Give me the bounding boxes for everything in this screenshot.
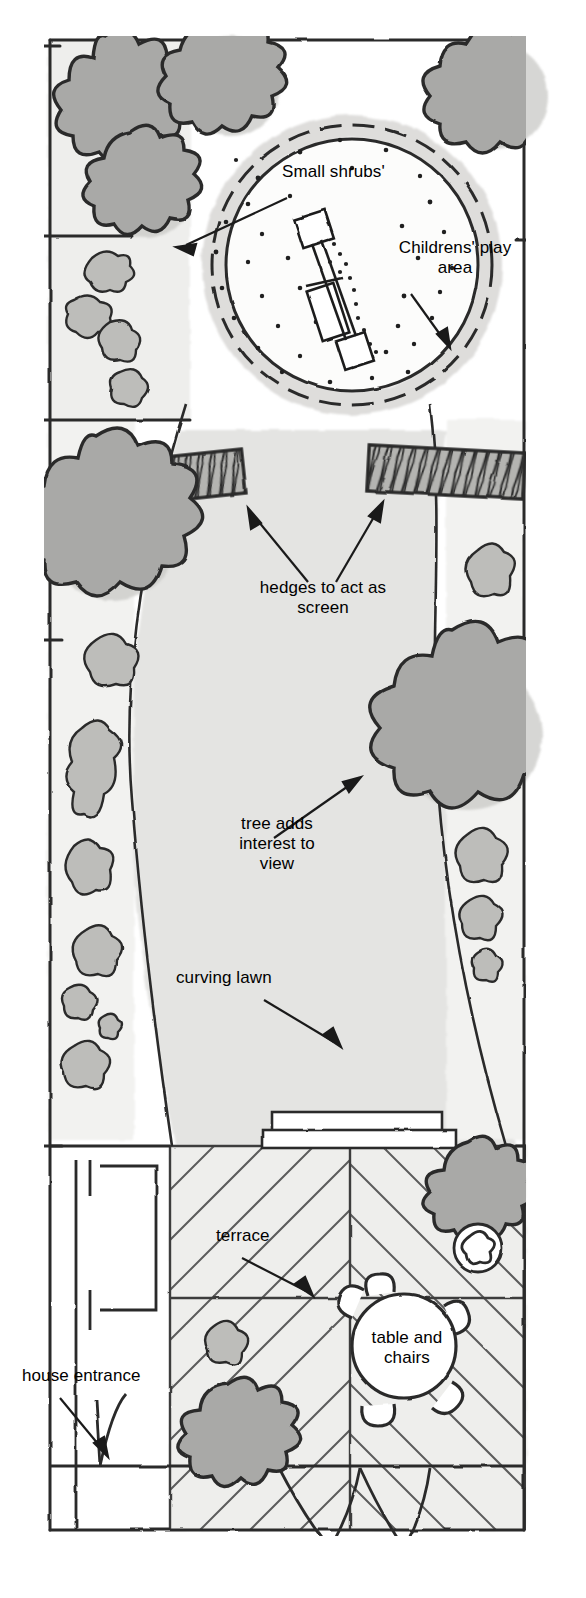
label-house-entrance: house entrance [22, 1366, 192, 1386]
label-tree-adds-interest-to-view: tree adds interest to view [212, 814, 342, 874]
chair [362, 1404, 395, 1426]
label-table-and-chairs: table and chairs [349, 1328, 465, 1368]
tree-top-mid [158, 14, 287, 134]
label-small-shrubs: Small shrubs' [282, 162, 452, 182]
garden-plan-page: Small shrubs' Childrens' play area hedge… [0, 0, 586, 1598]
pot-plant [454, 1224, 502, 1272]
label-childrens-play-area: Childrens' play area [380, 238, 530, 278]
label-hedges-to-act-as-screen: hedges to act as screen [230, 578, 416, 618]
label-terrace: terrace [216, 1226, 316, 1246]
label-curving-lawn: curving lawn [176, 968, 326, 988]
terrace-step [262, 1112, 456, 1148]
hedge-right [367, 445, 525, 499]
